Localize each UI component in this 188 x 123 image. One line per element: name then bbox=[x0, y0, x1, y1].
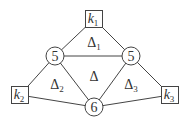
node-cB: 6 bbox=[85, 98, 103, 116]
node-label: 5 bbox=[128, 49, 135, 64]
node-label: 6 bbox=[91, 100, 98, 115]
node-k2: k2 bbox=[12, 87, 29, 105]
triangle-diagram: k1k2k3556 Δ1ΔΔ2Δ3 bbox=[0, 0, 188, 123]
node-k1: k1 bbox=[86, 11, 103, 29]
edge-k2-cB bbox=[20, 95, 94, 107]
diagram-canvas: k1k2k3556 Δ1ΔΔ2Δ3 bbox=[0, 0, 188, 123]
edges bbox=[20, 19, 170, 107]
region-label: Δ1 bbox=[87, 35, 101, 52]
node-cL: 5 bbox=[46, 47, 64, 65]
edge-k3-cB bbox=[94, 95, 170, 107]
node-k3: k3 bbox=[162, 87, 179, 105]
node-subscript: 3 bbox=[170, 94, 175, 104]
node-subscript: 2 bbox=[20, 94, 25, 104]
node-label: 5 bbox=[52, 49, 59, 64]
nodes: k1k2k3556 bbox=[12, 11, 179, 117]
edge-cL-cB bbox=[55, 56, 94, 107]
region-label: Δ3 bbox=[124, 77, 138, 94]
region-label: Δ bbox=[89, 69, 98, 84]
node-cR: 5 bbox=[122, 47, 140, 65]
node-subscript: 1 bbox=[94, 18, 99, 28]
region-label: Δ2 bbox=[50, 77, 64, 94]
